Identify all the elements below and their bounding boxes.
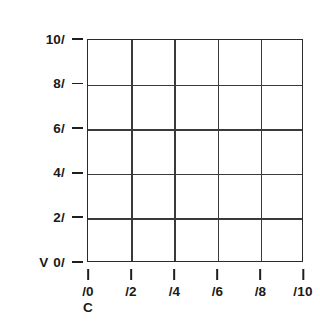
x-axis-tick-label: /10 <box>293 284 312 299</box>
x-axis-tick-label: /4 <box>169 284 181 299</box>
y-axis-tick-dash-icon <box>72 83 83 85</box>
y-axis-tick-label: 6/ <box>53 121 65 136</box>
y-axis-tick-dash-icon <box>72 127 83 129</box>
y-axis-tick-label: 10/ <box>46 32 65 47</box>
y-axis-tick-2: 2/ <box>53 208 87 226</box>
y-axis-tick-dash-icon <box>72 38 83 40</box>
y-axis-tick-label: 8/ <box>53 76 65 91</box>
x-axis-tick-label: /0 <box>82 284 94 299</box>
grid-line-horizontal <box>88 85 302 86</box>
y-axis-tick-4: 4/ <box>53 164 87 182</box>
x-axis-tick-mark-icon <box>87 269 89 280</box>
grid-line-horizontal <box>88 218 302 219</box>
x-axis-title: C <box>83 300 93 315</box>
grid-line-vertical <box>218 40 219 261</box>
y-axis-tick-6: 6/ <box>53 119 87 137</box>
y-axis-tick-8: 8/ <box>53 75 87 93</box>
x-axis-tick-4: /4 <box>169 262 181 299</box>
x-axis-tick-mark-icon <box>130 269 132 280</box>
grid-line-vertical <box>261 40 262 261</box>
x-axis-tick-label: /6 <box>212 284 224 299</box>
grid-line-horizontal <box>88 174 302 175</box>
x-axis-tick-label: /8 <box>255 284 267 299</box>
y-axis-tick-label: 2/ <box>53 210 65 225</box>
y-axis-tick-label: 4/ <box>53 165 65 180</box>
y-axis-tick-dash-icon <box>72 216 83 218</box>
grid-line-vertical <box>174 40 175 261</box>
y-axis-tick-dash-icon <box>72 172 83 174</box>
x-axis: /0 C /2 /4 /6 /8 /10 <box>0 262 320 333</box>
x-axis-tick-mark-icon <box>174 269 176 280</box>
x-axis-tick-mark-icon <box>302 269 304 280</box>
x-axis-tick-0: /0 C <box>82 262 94 315</box>
x-axis-tick-8: /8 <box>255 262 267 299</box>
x-axis-tick-mark-icon <box>217 269 219 280</box>
x-axis-tick-10: /10 <box>293 262 312 299</box>
x-axis-tick-label: /2 <box>125 284 137 299</box>
x-axis-tick-2: /2 <box>125 262 137 299</box>
grid-line-vertical <box>131 40 132 261</box>
plot-area <box>87 39 303 262</box>
x-axis-tick-6: /6 <box>212 262 224 299</box>
chart-figure: 10/ 8/ 6/ 4/ 2/ V 0/ <box>0 0 320 333</box>
grid-line-horizontal <box>88 129 302 130</box>
y-axis-tick-10: 10/ <box>46 30 87 48</box>
x-axis-tick-mark-icon <box>260 269 262 280</box>
